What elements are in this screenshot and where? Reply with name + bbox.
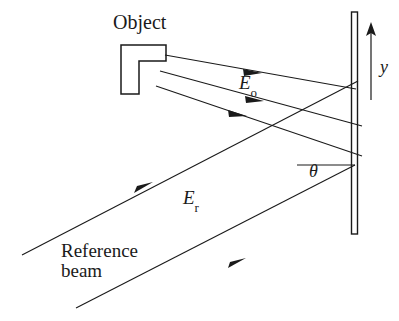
object-ray-1 <box>165 55 356 89</box>
object-label: Object <box>113 12 166 33</box>
object-field-label: Eo <box>239 73 257 96</box>
y-axis-label: y <box>380 58 388 77</box>
reference-ray-lower-arrowhead <box>228 258 246 268</box>
reference-field-label: Er <box>183 188 199 211</box>
reference-beam-label: Referencebeam <box>61 241 138 281</box>
reference-field-subscript: r <box>195 200 199 215</box>
object-field-symbol: E <box>239 72 251 93</box>
y-axis-arrow <box>366 22 376 100</box>
reference-ray-lower <box>76 165 355 308</box>
reference-beam-label-line1: Reference <box>61 240 138 261</box>
reference-beam-label-line2: beam <box>61 260 102 281</box>
reference-field-symbol: E <box>183 187 195 208</box>
reference-ray-upper <box>22 81 358 255</box>
theta-angle-label: θ <box>309 162 318 181</box>
object-ray-3-arrowhead <box>228 110 247 117</box>
object-ray-3 <box>156 86 362 156</box>
diagram-canvas <box>0 0 399 321</box>
object-field-subscript: o <box>251 85 258 100</box>
object-ray-2 <box>160 71 362 126</box>
holography-diagram: Object Referencebeam Eo Er θ y <box>0 0 399 321</box>
reference-ray-upper-arrowhead <box>134 182 153 193</box>
object-beam-rays <box>156 55 362 156</box>
